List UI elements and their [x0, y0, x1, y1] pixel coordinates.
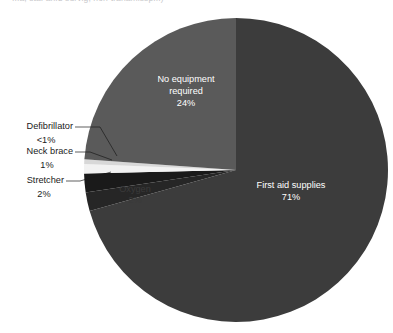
- slice-label-no-equipment-required-line2: required: [169, 86, 203, 96]
- slice-label-first-aid-supplies: First aid supplies: [257, 180, 326, 190]
- callout-value-defibrillator: <1%: [37, 135, 56, 145]
- pie-chart-figure: ...a, sta. an.d survig, non-tranamissp..…: [0, 0, 393, 333]
- callout-value-neck-brace: 1%: [40, 160, 53, 170]
- slice-value-first-aid-supplies: 71%: [282, 192, 300, 202]
- slice-value-oxygen: 2%: [128, 195, 141, 205]
- slice-label-no-equipment-required: No equipment: [157, 74, 215, 84]
- slice-value-no-equipment-required: 24%: [177, 98, 195, 108]
- pie-slices-group: [84, 18, 388, 322]
- pie-chart-svg: First aid supplies71%Stretcher2%Oxygen2%…: [0, 0, 393, 333]
- callout-label-defibrillator: Defibrillator: [27, 121, 73, 131]
- callout-value-stretcher: 2%: [37, 189, 50, 199]
- slice-label-oxygen: Oxygen: [119, 184, 151, 194]
- callout-label-neck-brace: Neck brace: [27, 146, 73, 156]
- pie-slice-no-equipment-required[interactable]: [84, 18, 236, 170]
- callout-label-stretcher: Stretcher: [27, 175, 64, 185]
